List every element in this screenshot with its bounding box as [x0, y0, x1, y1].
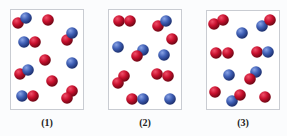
- red-atom-icon: [27, 90, 39, 102]
- red-atom-icon: [222, 47, 234, 59]
- blue-atom-icon: [112, 41, 124, 53]
- red-atom-icon: [210, 47, 222, 59]
- red-atom-icon: [112, 77, 124, 89]
- red-atom-icon: [131, 50, 143, 62]
- red-atom-icon: [251, 46, 263, 58]
- molecules-layer: [0, 0, 287, 136]
- red-atom-icon: [264, 14, 276, 26]
- red-atom-icon: [209, 86, 221, 98]
- blue-atom-icon: [66, 27, 78, 39]
- blue-atom-icon: [164, 93, 176, 105]
- red-atom-icon: [46, 75, 58, 87]
- blue-atom-icon: [16, 90, 28, 102]
- red-atom-icon: [29, 36, 41, 48]
- red-atom-icon: [259, 91, 271, 103]
- red-atom-icon: [42, 14, 54, 26]
- red-atom-icon: [61, 92, 73, 104]
- red-atom-icon: [126, 93, 138, 105]
- red-atom-icon: [113, 15, 125, 27]
- blue-atom-icon: [137, 93, 149, 105]
- blue-atom-icon: [22, 64, 34, 76]
- red-atom-icon: [39, 54, 51, 66]
- blue-atom-icon: [18, 36, 30, 48]
- red-atom-icon: [162, 70, 174, 82]
- red-atom-icon: [151, 68, 163, 80]
- red-atom-icon: [217, 14, 229, 26]
- blue-atom-icon: [66, 57, 78, 69]
- blue-atom-icon: [20, 12, 32, 24]
- red-atom-icon: [244, 73, 256, 85]
- blue-atom-icon: [236, 27, 248, 39]
- red-atom-icon: [166, 33, 178, 45]
- blue-atom-icon: [262, 46, 274, 58]
- blue-atom-icon: [160, 15, 172, 27]
- blue-atom-icon: [158, 49, 170, 61]
- red-atom-icon: [234, 89, 246, 101]
- blue-atom-icon: [223, 69, 235, 81]
- red-atom-icon: [124, 15, 136, 27]
